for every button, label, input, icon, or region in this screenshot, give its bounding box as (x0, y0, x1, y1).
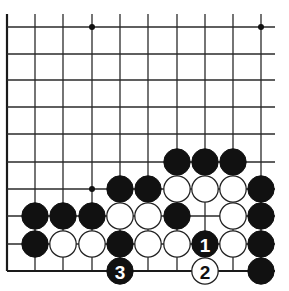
white-stone (220, 231, 246, 257)
move-number-label: 2 (200, 262, 211, 283)
black-stone-icon (248, 203, 274, 229)
black-stone (248, 176, 274, 202)
move-number-label: 1 (200, 235, 211, 256)
white-stone (50, 231, 76, 257)
white-stone-icon (220, 231, 246, 257)
star-point-icon (89, 186, 95, 192)
black-stone-icon (79, 203, 105, 229)
white-stone-icon (135, 231, 161, 257)
black-stone (50, 203, 76, 229)
black-stone-icon (135, 176, 161, 202)
black-stone-icon (164, 203, 190, 229)
black-stone (107, 231, 133, 257)
white-stone (135, 231, 161, 257)
black-stone (22, 231, 48, 257)
black-stone-icon (248, 231, 274, 257)
white-stone (192, 176, 218, 202)
black-stone (248, 258, 274, 284)
white-stone-move-2: 2 (192, 258, 218, 284)
white-stone-icon (79, 231, 105, 257)
black-stone-icon (248, 176, 274, 202)
black-stone-icon (107, 176, 133, 202)
white-stone (220, 203, 246, 229)
black-stone (107, 176, 133, 202)
white-stone-icon (50, 231, 76, 257)
black-stone-icon (248, 258, 274, 284)
star-point-icon (89, 24, 95, 30)
white-stone-icon (107, 203, 133, 229)
black-stone (79, 203, 105, 229)
black-stone-icon (192, 149, 218, 175)
black-stone-icon (107, 231, 133, 257)
black-stone (135, 176, 161, 202)
white-stone (79, 231, 105, 257)
white-stone (164, 231, 190, 257)
black-stone-icon (220, 149, 246, 175)
black-stone-move-1: 1 (192, 231, 218, 257)
black-stone (220, 149, 246, 175)
white-stone (135, 203, 161, 229)
black-stone (164, 149, 190, 175)
black-stone-icon (22, 231, 48, 257)
white-stone-icon (135, 203, 161, 229)
black-stone-icon (22, 203, 48, 229)
white-stone (107, 203, 133, 229)
black-stone (248, 231, 274, 257)
white-stone-icon (164, 231, 190, 257)
black-stone (22, 203, 48, 229)
black-stone (164, 203, 190, 229)
move-number-label: 3 (115, 262, 126, 283)
white-stone (164, 176, 190, 202)
star-point-icon (258, 24, 264, 30)
white-stone-icon (192, 176, 218, 202)
black-stone-icon (164, 149, 190, 175)
white-stone-icon (164, 176, 190, 202)
white-stone-icon (220, 176, 246, 202)
black-stone-move-3: 3 (107, 258, 133, 284)
go-board-diagram: 132 (0, 0, 289, 291)
black-stone-icon (50, 203, 76, 229)
black-stone (192, 149, 218, 175)
black-stone (248, 203, 274, 229)
white-stone-icon (220, 203, 246, 229)
white-stone (220, 176, 246, 202)
